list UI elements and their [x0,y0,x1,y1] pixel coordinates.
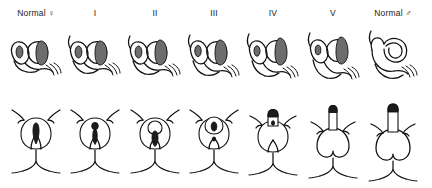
stage-column-stage-2: II [124,0,186,188]
stage-column-normal-female: Normal ♀ [5,0,67,188]
stage-label: V [302,8,364,18]
stage-column-stage-4: IV [242,0,304,188]
external-diagram-stage-5 [302,96,364,186]
prader-scale-figure: Normal ♀ [0,0,432,188]
sagittal-diagram-stage-1 [64,24,126,86]
stage-column-stage-3: III [183,0,245,188]
external-diagram-normal-female [5,96,67,186]
stage-column-stage-1: I [64,0,126,188]
external-diagram-stage-1 [64,96,126,186]
stage-label: III [183,8,245,18]
external-diagram-stage-3 [183,96,245,186]
sagittal-diagram-stage-5 [302,24,364,86]
stage-label: Normal ♂ [362,8,424,18]
external-diagram-stage-2 [124,96,186,186]
sagittal-diagram-stage-4 [242,24,304,86]
sagittal-diagram-normal-female [5,24,67,86]
stage-column-stage-5: V [302,0,364,188]
stage-label: I [64,8,126,18]
stage-label: IV [242,8,304,18]
external-diagram-stage-4 [242,96,304,186]
sagittal-diagram-stage-2 [124,24,186,86]
stage-label: II [124,8,186,18]
sagittal-diagram-normal-male [362,24,424,86]
external-diagram-normal-male [362,96,424,186]
sagittal-diagram-stage-3 [183,24,245,86]
stage-column-normal-male: Normal ♂ [362,0,424,188]
stage-label: Normal ♀ [5,8,67,18]
